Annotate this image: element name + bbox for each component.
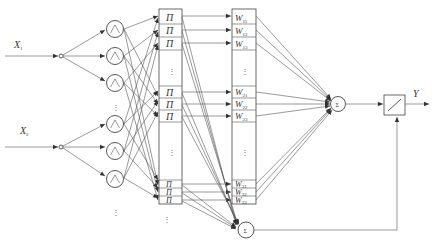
ellipsis: ⋮ [168,67,176,76]
membership-node [107,143,124,160]
rule-layer: Π Π Π ⋮ Π Π Π ⋮ Π Π Π ⋮ [159,9,182,224]
rule-node-label: Π [165,25,174,36]
membership-node [107,116,124,133]
rule-to-sum-links [182,17,239,229]
sum-node-top: Σ [331,97,346,112]
membership-node [107,171,124,188]
membership-node [107,21,124,38]
ellipsis: ⋮ [168,148,176,157]
fan-out-x2 [63,124,105,176]
weight-layer: W11 W12 W13 ⋮ W21 W22 W23 ⋮ W31 W32 W33 [232,9,256,205]
input-x1-junction [59,54,63,58]
rule-node-label: Π [165,87,174,98]
bottom-sum-to-divider-link [254,117,397,230]
input-x1: X1 [5,39,63,58]
ellipsis: ⋮ [241,148,249,157]
ellipsis: ⋮ [112,208,120,217]
membership-node [107,48,124,65]
output-label: Y [413,88,420,99]
sigma-icon: Σ [336,102,340,108]
weight-to-sum-links [256,16,332,200]
membership-layer: ⋮ ⋮ [107,21,124,218]
rule-node-label: Π [165,99,174,110]
input-x2: X2 [5,125,63,149]
rule-node-label: Π [165,111,174,122]
membership-to-rule-links [124,16,158,200]
sum-node-bottom: Σ [238,222,254,238]
rule-to-weight-links [182,16,231,200]
input-x2-label: X2 [19,125,29,137]
membership-node [107,75,124,92]
input-x2-junction [59,145,63,149]
fan-out-x1 [63,30,105,81]
ellipsis: ⋮ [241,67,249,76]
fuzzy-network-diagram: X1 X2 [0,0,435,241]
sigma-icon: Σ [244,228,248,234]
rule-node-label: Π [165,38,174,49]
rule-node-label: Π [165,12,174,23]
input-x1-label: X1 [13,39,23,51]
ellipsis: ⋮ [163,215,171,224]
ellipsis: ⋮ [112,103,120,112]
divider-block [384,95,405,115]
